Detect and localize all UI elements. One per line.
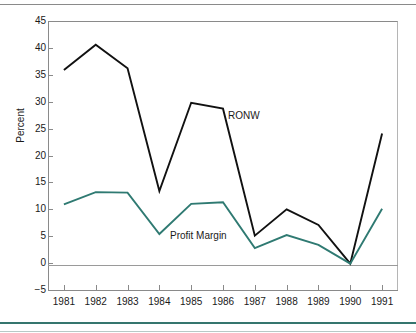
chart-figure: 454035302520151050−5 1981198219831984198… [0,0,416,333]
series-line-profit-margin [64,192,382,264]
bottom-secondary-rule [0,331,416,332]
chart-lines [0,0,416,333]
series-annotation-ronw: RONW [228,110,260,121]
series-annotation-profit-margin: Profit Margin [170,230,227,241]
bottom-accent-rule [0,322,416,324]
